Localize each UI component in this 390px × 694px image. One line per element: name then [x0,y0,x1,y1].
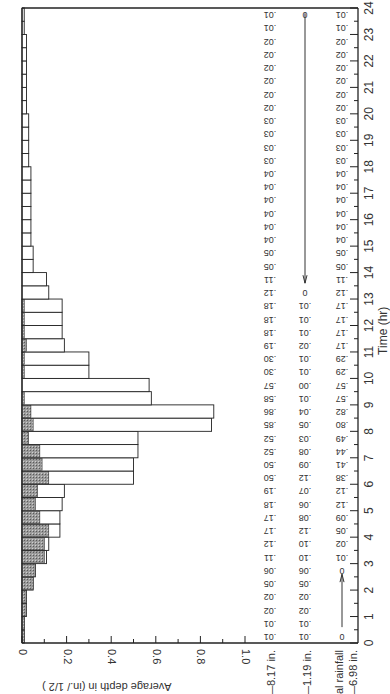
rainfall-bar [22,405,214,418]
value-label-loss: .03 [299,434,312,444]
value-label-rainfall: .04 [264,209,277,219]
value-columns-group: .01.01.02.02.05.06.11.12.17.17.18.19.50.… [264,10,349,642]
depth-axis-label: Average depth in (in./ 1/2 ) [42,681,171,693]
value-label-rainfall-excess: .09 [336,513,349,523]
value-label-rainfall-excess: .82 [336,407,349,417]
time-tick-label: 14 [362,266,376,280]
rainfall-bar [22,114,29,127]
loss-bar [22,498,35,510]
value-label-rainfall-excess: .02 [336,63,349,73]
value-label-loss: .01 [299,328,312,338]
rainfall-bar [22,378,149,391]
loss-bar [22,538,44,550]
labels-group: Total rainfall—8.17 in.Total loss—1.19 i… [265,650,359,694]
value-label-rainfall: .03 [264,143,277,153]
time-tick-label: 11 [362,345,376,358]
value-label-rainfall: .12 [264,288,277,298]
value-label-rainfall: .01 [264,23,277,33]
value-label-rainfall: .06 [264,566,277,576]
value-label-rainfall-excess: .17 [336,301,349,311]
loss-bar [22,405,31,417]
value-label-rainfall: .30 [264,354,277,364]
time-tick-label: 23 [362,27,376,41]
value-label-rainfall: .85 [264,420,277,430]
value-label-rainfall-excess: .11 [336,275,348,285]
value-label-rainfall: .11 [264,553,276,563]
value-label-rainfall-excess: .03 [336,116,349,126]
rainfall-bar [22,220,31,233]
time-tick-label: 3 [362,560,376,567]
loss-bar [22,591,26,603]
time-tick-label: 22 [362,54,376,68]
value-label-loss: .02 [299,606,312,616]
total-excess-annotation-line1: Total rainfall [333,650,345,694]
time-axis-label: Time (hr) [376,307,390,355]
value-label-rainfall: .05 [264,262,277,272]
value-label-rainfall-excess: .12 [336,500,349,510]
value-label-loss: .00 [299,381,312,391]
depth-tick-label: 0.2 [62,649,74,664]
value-label-loss: .08 [299,447,312,457]
total-loss-annotation: Total loss—1.19 in. [301,650,313,694]
rainfall-bar [22,167,31,180]
value-label-loss: .01 [299,315,312,325]
value-label-rainfall: .03 [264,129,277,139]
value-label-rainfall-excess: .01 [336,23,349,33]
value-label-rainfall-excess: .04 [336,235,349,245]
value-label-rainfall-excess: .03 [336,156,349,166]
value-label-rainfall: .18 [264,301,277,311]
value-label-loss: .09 [299,460,312,470]
time-tick-label: 17 [362,186,376,200]
total-rainfall-annotation: Total rainfall—8.17 in. [265,650,277,694]
rainfall-bar [22,339,64,352]
value-label-rainfall-excess: .44 [336,447,349,457]
value-label-rainfall-excess: .01 [336,553,349,563]
value-label-loss: .12 [299,473,312,483]
loss-bar [22,432,29,444]
value-label-rainfall: .04 [264,235,277,245]
value-label-rainfall-excess: .49 [336,434,349,444]
value-label-rainfall: .19 [264,486,277,496]
value-label-rainfall: .17 [264,526,277,536]
bars-group [22,8,214,643]
rainfall-bar [22,312,62,325]
rainfall-bar [22,392,151,405]
rainfall-bar [22,326,62,339]
value-label-rainfall-excess: .02 [336,76,349,86]
value-label-rainfall: .18 [264,500,277,510]
rainfall-bar [22,74,26,87]
time-tick-label: 19 [362,133,376,147]
value-label-rainfall-excess: .02 [336,37,349,47]
value-label-rainfall-excess: .04 [336,169,349,179]
value-label-rainfall-excess: .02 [336,50,349,60]
value-label-rainfall-excess: .57 [336,381,349,391]
time-tick-label: 7 [362,454,376,461]
value-label-rainfall: .52 [264,447,277,457]
value-label-rainfall-excess: .03 [336,129,349,139]
time-tick-label: 16 [362,213,376,227]
rainfall-bar [22,127,29,140]
value-label-rainfall: .01 [264,619,277,629]
rainfall-bar [22,299,62,312]
value-label-rainfall-excess: .05 [336,262,349,272]
value-label-rainfall: .04 [264,222,277,232]
time-tick-label: 0 [362,639,376,646]
value-label-rainfall-excess: .80 [336,420,349,430]
rainfall-bar [22,101,26,114]
depth-tick-label: 0.8 [195,649,207,664]
value-label-rainfall: .04 [264,169,277,179]
rainfall-bar [22,180,31,193]
time-tick-label: 15 [362,239,376,253]
value-label-loss: .01 [299,301,312,311]
value-label-rainfall: .04 [264,182,277,192]
value-label-rainfall: .02 [264,103,277,113]
value-label-rainfall: .02 [264,63,277,73]
value-label-rainfall: .50 [264,473,277,483]
value-label-rainfall: .05 [264,579,277,589]
value-label-loss: .01 [299,632,312,642]
rainfall-bar [22,61,26,74]
rainfall-bar [22,34,26,47]
axes-group: 00.20.40.60.81.0Average depth in (in./ 1… [17,1,390,693]
value-label-rainfall: .01 [264,632,277,642]
value-label-rainfall-excess: .04 [336,182,349,192]
